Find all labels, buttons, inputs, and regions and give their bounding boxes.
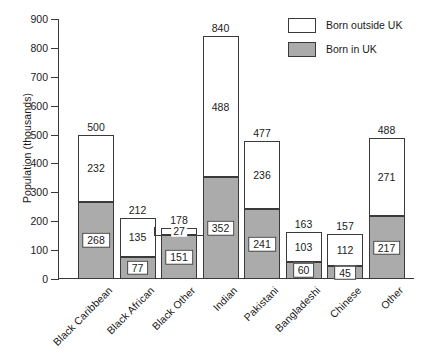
bar-value-label-born-outside-uk: 135 [127, 232, 149, 243]
bar-value-label-born-in-uk: 217 [373, 240, 401, 255]
bar-value-label-born-outside-uk: 27 [171, 226, 187, 237]
bar-total-label: 500 [87, 122, 105, 133]
bar-group[interactable]: 77135212 [120, 218, 156, 279]
legend-swatch-icon-born-in-uk [288, 42, 316, 57]
bar-value-label-born-in-uk: 352 [207, 221, 235, 236]
x-axis-label-indian: Indian [210, 284, 239, 313]
bar-value-label-born-outside-uk: 103 [293, 242, 315, 253]
x-axis-label-black-other: Black Other [149, 284, 197, 332]
bar-total-label: 477 [253, 128, 271, 139]
population-stacked-bar-chart: Population (thousands) 90080070060050040… [0, 0, 432, 361]
y-axis-tick-label: 500 [4, 129, 48, 141]
bar-group[interactable]: 45112157 [327, 234, 363, 279]
bar-total-label: 163 [295, 219, 313, 230]
y-axis-tick-label: 0 [4, 273, 48, 285]
y-axis-tick-label: 700 [4, 71, 48, 83]
bar-value-label-born-in-uk: 45 [334, 265, 356, 280]
bar-value-label-born-in-uk: 241 [248, 237, 276, 252]
bar-group[interactable]: 241236477 [244, 141, 280, 279]
bar-value-label-born-in-uk: 77 [127, 261, 149, 276]
bar-total-label: 488 [378, 125, 396, 136]
legend-item-born-in-uk: Born in UK [288, 40, 402, 58]
y-axis-tick-label: 400 [4, 157, 48, 169]
x-axis-label-pakistani: Pakistani [241, 284, 280, 323]
legend-label-born-outside-uk: Born outside UK [326, 19, 402, 31]
bar-value-label-born-outside-uk: 236 [251, 170, 273, 181]
y-axis-tick-label: 600 [4, 100, 48, 112]
y-axis-tick-label: 300 [4, 186, 48, 198]
bar-group[interactable]: 352488840 [203, 36, 239, 279]
y-axis-tick [51, 279, 59, 280]
bar-value-label-born-in-uk: 151 [165, 250, 193, 265]
bar-value-label-born-outside-uk: 271 [376, 172, 398, 183]
x-axis-label-black-caribbean: Black Caribbean [50, 284, 114, 348]
bar-value-label-born-outside-uk: 112 [335, 245, 356, 256]
bar-value-label-born-outside-uk: 488 [210, 102, 232, 113]
chart-legend: Born outside UK Born in UK [288, 16, 402, 64]
y-axis-tick-label: 200 [4, 215, 48, 227]
bar-total-label: 840 [212, 23, 230, 34]
bar-group[interactable]: 15127178 [161, 228, 197, 279]
legend-swatch-icon-born-outside-uk [288, 18, 316, 33]
bar-value-label-born-in-uk: 60 [293, 263, 315, 278]
x-axis-label-other: Other [378, 284, 405, 311]
bar-value-label-born-outside-uk: 232 [85, 163, 107, 174]
bar-total-label: 212 [129, 205, 147, 216]
x-axis-label-chinese: Chinese [327, 284, 363, 320]
bar-total-label: 157 [336, 221, 354, 232]
legend-item-born-outside-uk: Born outside UK [288, 16, 402, 34]
bar-group[interactable]: 268232500 [78, 135, 114, 279]
bar-group[interactable]: 217271488 [369, 138, 405, 279]
y-axis-tick-label: 800 [4, 42, 48, 54]
legend-label-born-in-uk: Born in UK [326, 43, 377, 55]
bar-value-label-born-in-uk: 268 [82, 233, 110, 248]
bar-total-label: 178 [170, 215, 188, 226]
bar-group[interactable]: 60103163 [286, 232, 322, 279]
y-axis-tick-label: 900 [4, 13, 48, 25]
y-axis-tick-label: 100 [4, 244, 48, 256]
